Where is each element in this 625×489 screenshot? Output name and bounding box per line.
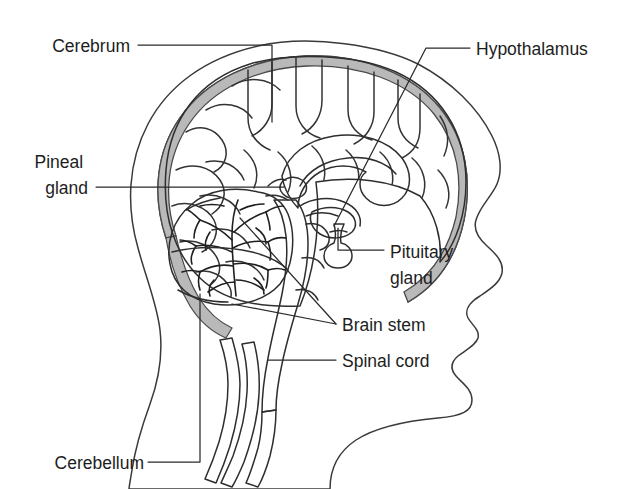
labels: Cerebrum Pineal gland Cerebellum Hypotha…: [34, 36, 588, 473]
leader-cerebellum: [148, 294, 200, 462]
label-pituitary-gland-line2: gland: [390, 268, 433, 288]
brain-anatomy-diagram: Cerebrum Pineal gland Cerebellum Hypotha…: [0, 0, 625, 489]
label-pituitary-gland: Pituitary gland: [390, 242, 458, 288]
label-pineal-gland: Pineal gland: [34, 152, 88, 198]
label-hypothalamus: Hypothalamus: [476, 39, 588, 59]
label-pituitary-gland-line1: Pituitary: [390, 242, 453, 262]
label-pineal-gland-line1: Pineal: [34, 152, 83, 172]
label-spinal-cord: Spinal cord: [342, 351, 430, 371]
label-cerebrum: Cerebrum: [52, 36, 130, 56]
spinal-cord: [205, 338, 276, 487]
label-pineal-gland-line2: gland: [45, 178, 88, 198]
corpus-callosum: [282, 135, 410, 226]
label-brain-stem: Brain stem: [342, 315, 426, 335]
diagram-canvas: Cerebrum Pineal gland Cerebellum Hypotha…: [0, 0, 625, 489]
label-cerebellum: Cerebellum: [55, 453, 144, 473]
leader-cerebrum: [138, 45, 272, 122]
